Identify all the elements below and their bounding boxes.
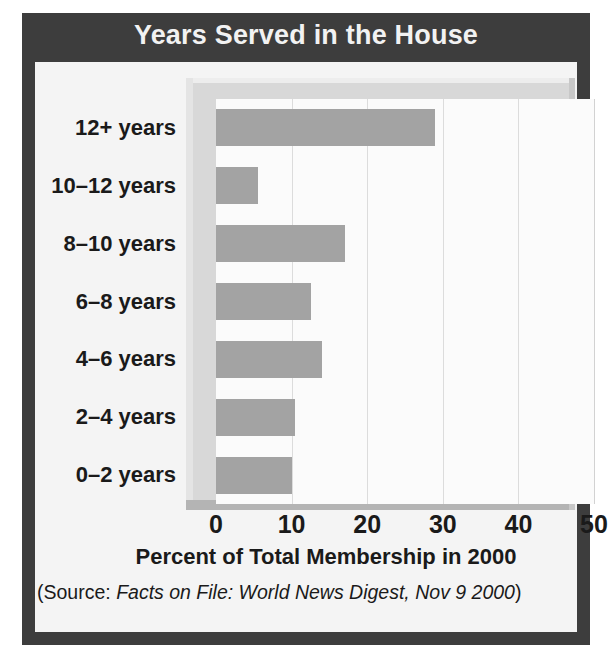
chart-figure: Years Served in the House 0–2 years2–4 y… bbox=[22, 13, 590, 645]
y-axis-tick-label: 12+ years bbox=[75, 115, 176, 141]
x-axis-tick-label: 10 bbox=[278, 510, 306, 539]
y-axis-tick-label: 2–4 years bbox=[76, 404, 176, 430]
x-axis-tick-label: 30 bbox=[429, 510, 457, 539]
x-axis-label: Percent of Total Membership in 2000 bbox=[35, 544, 577, 570]
gridline bbox=[594, 99, 595, 504]
bar bbox=[216, 167, 258, 204]
plot-bevel-frame bbox=[186, 78, 575, 510]
x-axis-tick-label: 40 bbox=[504, 510, 532, 539]
bar bbox=[216, 341, 322, 378]
bar bbox=[216, 457, 292, 494]
bar bbox=[216, 109, 435, 146]
y-axis-tick-labels: 0–2 years2–4 years4–6 years6–8 years8–10… bbox=[35, 78, 181, 510]
y-axis-tick-label: 10–12 years bbox=[51, 173, 176, 199]
source-prefix: (Source: bbox=[37, 581, 116, 603]
x-axis-tick-label: 20 bbox=[353, 510, 381, 539]
y-axis-tick-label: 6–8 years bbox=[76, 289, 176, 315]
gridline bbox=[518, 99, 519, 504]
plot-canvas bbox=[216, 99, 594, 504]
y-axis-tick-label: 8–10 years bbox=[63, 231, 176, 257]
y-axis-tick-label: 0–2 years bbox=[76, 462, 176, 488]
chart-body-panel: 0–2 years2–4 years4–6 years6–8 years8–10… bbox=[22, 58, 590, 645]
x-axis-tick-labels: 01020304050 bbox=[186, 510, 575, 544]
x-axis-label-text: Percent of Total Membership in 2000 bbox=[95, 544, 516, 570]
gridline bbox=[443, 99, 444, 504]
bevel-highlight-top bbox=[186, 78, 575, 83]
source-note: (Source: Facts on File: World News Diges… bbox=[37, 581, 577, 604]
source-citation: Facts on File: World News Digest, Nov 9 … bbox=[116, 581, 515, 603]
chart-panel-inner: 0–2 years2–4 years4–6 years6–8 years8–10… bbox=[35, 62, 577, 632]
bar bbox=[216, 399, 295, 436]
page-title: Years Served in the House bbox=[134, 20, 478, 51]
chart-plot-area: 0–2 years2–4 years4–6 years6–8 years8–10… bbox=[35, 62, 577, 522]
x-axis-tick-label: 50 bbox=[580, 510, 608, 539]
bar bbox=[216, 225, 345, 262]
bevel-highlight-left bbox=[186, 78, 193, 510]
chart-title-banner: Years Served in the House bbox=[22, 13, 590, 58]
gridline bbox=[367, 99, 368, 504]
source-suffix: ) bbox=[515, 581, 522, 603]
y-axis-tick-label: 4–6 years bbox=[76, 346, 176, 372]
bar bbox=[216, 283, 311, 320]
x-axis-tick-label: 0 bbox=[209, 510, 223, 539]
